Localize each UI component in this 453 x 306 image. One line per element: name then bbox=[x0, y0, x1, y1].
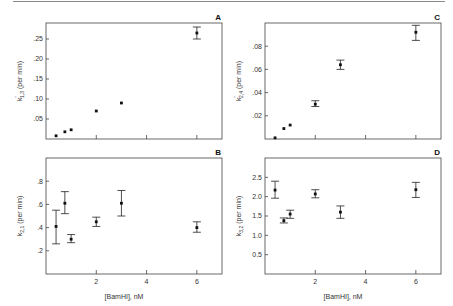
y-label-unit: (per min) bbox=[16, 61, 24, 89]
data-point bbox=[120, 102, 123, 105]
x-axis-label: [BamHI], nM bbox=[105, 293, 144, 301]
y-tick-label: .25 bbox=[33, 35, 43, 42]
data-point bbox=[314, 103, 317, 106]
plot-frame bbox=[46, 158, 222, 274]
y-label-sub: 3,2 bbox=[238, 226, 244, 233]
y-axis-label: k'2,4(per min) bbox=[233, 61, 244, 101]
data-point bbox=[314, 193, 317, 196]
data-point bbox=[339, 211, 342, 214]
y-label-sub: 1,3 bbox=[19, 91, 25, 98]
y-axis-label: k'1,3(per min) bbox=[14, 61, 25, 101]
x-tick-label: 6 bbox=[195, 278, 199, 285]
y-label-unit: (per min) bbox=[235, 196, 243, 224]
plot-frame bbox=[46, 23, 222, 139]
y-tick-label: .6 bbox=[37, 201, 43, 208]
y-tick-label: .06 bbox=[252, 66, 262, 73]
panel-letter: A bbox=[215, 13, 221, 22]
data-point bbox=[282, 219, 285, 222]
x-tick-label: 2 bbox=[94, 278, 98, 285]
panel-c: C.02.04.06.08k'2,4(per min) bbox=[233, 13, 441, 139]
y-tick-label: .4 bbox=[37, 224, 43, 231]
data-point bbox=[95, 110, 98, 113]
y-axis-label: k3,2(per min) bbox=[235, 196, 244, 236]
figure-canvas: A.05.10.15.20.25k'1,3(per min)B.2.4.6.82… bbox=[0, 0, 453, 306]
x-tick-label: 2 bbox=[313, 278, 317, 285]
data-point bbox=[282, 127, 285, 130]
y-tick-label: .20 bbox=[33, 55, 43, 62]
data-point bbox=[70, 238, 73, 241]
y-tick-label: .04 bbox=[252, 89, 262, 96]
data-point bbox=[95, 220, 98, 223]
y-label-sub: 2,1 bbox=[19, 226, 25, 233]
plot-frame bbox=[265, 158, 441, 274]
y-tick-label: .2 bbox=[37, 247, 43, 254]
data-point bbox=[195, 32, 198, 35]
y-tick-label: .15 bbox=[33, 75, 43, 82]
data-point bbox=[274, 189, 277, 192]
panel-letter: C bbox=[434, 13, 440, 22]
data-point bbox=[55, 134, 58, 137]
data-point bbox=[55, 225, 58, 228]
data-point bbox=[70, 128, 73, 131]
data-point bbox=[195, 226, 198, 229]
y-axis-label: k2,1(per min) bbox=[16, 196, 25, 236]
panel-b: B.2.4.6.8246[BamHI], nMk2,1(per min) bbox=[16, 148, 222, 301]
y-tick-label: 0.5 bbox=[252, 251, 262, 258]
data-point bbox=[289, 213, 292, 216]
panel-d: D0.51.01.52.02.5246[BamHI], nMk3,2(per m… bbox=[235, 148, 441, 301]
y-tick-label: .02 bbox=[252, 112, 262, 119]
data-point bbox=[63, 202, 66, 205]
y-tick-label: 2.0 bbox=[252, 193, 262, 200]
panel-letter: B bbox=[215, 148, 221, 157]
y-tick-label: .8 bbox=[37, 178, 43, 185]
y-tick-label: 1.0 bbox=[252, 232, 262, 239]
x-tick-label: 4 bbox=[145, 278, 149, 285]
x-axis-label: [BamHI], nM bbox=[324, 293, 363, 301]
panel-letter: D bbox=[434, 148, 440, 157]
y-label-sub: 2,4 bbox=[238, 91, 244, 98]
data-point bbox=[414, 188, 417, 191]
y-tick-label: .10 bbox=[33, 95, 43, 102]
y-tick-label: .08 bbox=[252, 43, 262, 50]
y-label-unit: (per min) bbox=[16, 196, 24, 224]
x-tick-label: 6 bbox=[414, 278, 418, 285]
y-tick-label: .05 bbox=[33, 115, 43, 122]
data-point bbox=[289, 124, 292, 127]
panel-a: A.05.10.15.20.25k'1,3(per min) bbox=[14, 13, 222, 139]
y-label-unit: (per min) bbox=[235, 61, 243, 89]
y-tick-label: 2.5 bbox=[252, 174, 262, 181]
data-point bbox=[120, 202, 123, 205]
data-point bbox=[414, 31, 417, 34]
data-point bbox=[274, 136, 277, 139]
data-point bbox=[63, 130, 66, 133]
y-tick-label: 1.5 bbox=[252, 212, 262, 219]
data-point bbox=[339, 63, 342, 66]
x-tick-label: 4 bbox=[364, 278, 368, 285]
